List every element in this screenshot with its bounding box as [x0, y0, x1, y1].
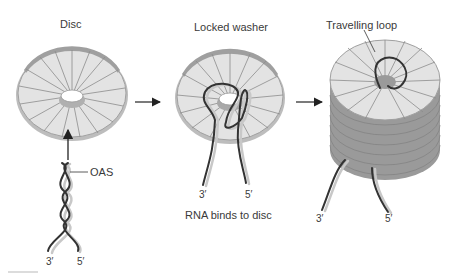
panel-3-5prime: 5′	[385, 213, 392, 224]
disc-stack	[330, 40, 440, 180]
panel-2-5prime: 5′	[245, 189, 252, 200]
panel-1-3prime: 3′	[46, 256, 53, 267]
panel-3-3prime: 3′	[316, 213, 323, 224]
panel-3-title: Travelling loop	[326, 19, 397, 31]
panel-2-title: Locked washer	[194, 21, 268, 33]
diagram-canvas	[0, 0, 454, 278]
panel-1-title: Disc	[60, 18, 81, 30]
panel-1-5prime: 5′	[77, 256, 84, 267]
figure-label-bar	[8, 271, 38, 273]
oas-label: OAS	[90, 166, 113, 178]
panel-2-3prime: 3′	[199, 189, 206, 200]
oas-rna	[48, 163, 80, 253]
disc-1	[16, 46, 128, 141]
panel-2-caption: RNA binds to disc	[185, 209, 272, 221]
